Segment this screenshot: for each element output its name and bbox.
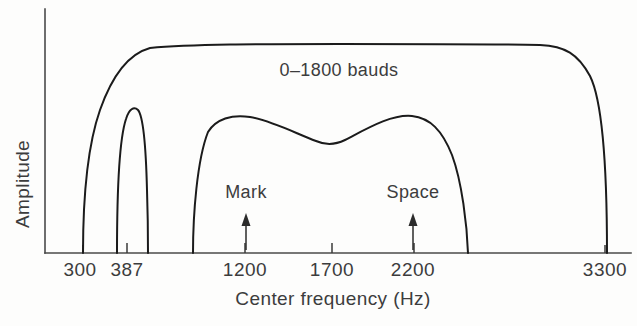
pointer-label-space: Space	[386, 182, 439, 203]
x-tick-label-1200: 1200	[223, 259, 267, 281]
x-tick-label-3300: 3300	[583, 259, 627, 281]
figure-container: Amplitude 0–1800 bauds Mark Space 300 38…	[0, 0, 637, 326]
x-tick-label-2200: 2200	[391, 259, 435, 281]
curve-narrow-spike	[117, 108, 148, 253]
mark-pointer-arrowhead	[242, 213, 251, 226]
mark-pointer	[242, 213, 251, 250]
curve-label-bauds: 0–1800 bauds	[280, 60, 399, 81]
x-tick-label-300: 300	[63, 259, 96, 281]
x-tick-label-387: 387	[110, 259, 143, 281]
space-pointer	[409, 213, 418, 250]
x-axis-title: Center frequency (Hz)	[235, 288, 430, 310]
space-pointer-arrowhead	[409, 213, 418, 226]
x-tick-label-1700: 1700	[310, 259, 354, 281]
pointer-label-mark: Mark	[225, 182, 267, 203]
y-axis-title: Amplitude	[12, 140, 34, 228]
